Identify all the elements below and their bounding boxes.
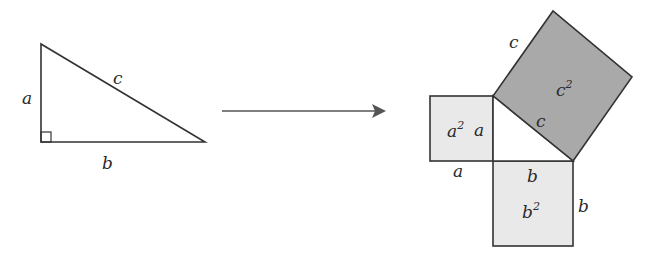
left-triangle: a c b xyxy=(22,44,205,173)
side-label-c: c xyxy=(113,68,123,88)
right-angle-marker xyxy=(41,132,51,142)
pythagorean-diagram: a c b a2 a a b b2 b c c2 c xyxy=(0,0,658,258)
arrow-icon xyxy=(222,104,386,118)
a-square-side-label-right: a xyxy=(474,120,484,140)
b-square-side-label-top: b xyxy=(527,166,538,186)
b-square-side-label-right: b xyxy=(578,196,589,216)
c-square-side-label-outer: c xyxy=(509,32,519,52)
squares-figure: a2 a a b b2 b c c2 c xyxy=(430,11,632,246)
triangle-outline xyxy=(41,44,205,142)
a-square-side-label-bottom: a xyxy=(453,161,463,181)
side-label-b: b xyxy=(102,153,113,173)
c-square-side-label-hypotenuse: c xyxy=(536,111,546,131)
side-label-a: a xyxy=(22,88,32,108)
